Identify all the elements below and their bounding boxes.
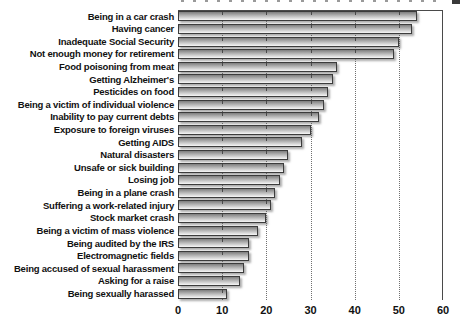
x-axis-tick-label: 20 [260,303,272,317]
category-label: Having cancer [0,24,174,34]
category-label: Unsafe or sick building [0,163,174,173]
x-axis-tick-label: 10 [216,303,228,317]
x-axis-tick-label: 30 [304,303,316,317]
category-label: Stock market crash [0,213,174,223]
category-label: Being in a car crash [0,12,174,22]
category-label: Natural disasters [0,150,174,160]
category-label: Electromagnetic fields [0,251,174,261]
category-label: Being accused of sexual harassment [0,264,174,274]
x-axis: 0102030405060 [0,303,462,319]
x-axis-tick-label: 60 [437,303,449,317]
category-label: Inadequate Social Security [0,37,174,47]
cropped-corner-mark [452,0,460,4]
category-label: Asking for a raise [0,276,174,286]
category-label: Losing job [0,175,174,185]
category-label: Food poisoning from meat [0,62,174,72]
category-label: Not enough money for retirement [0,49,174,59]
plot-frame [178,10,443,300]
x-axis-tick-label: 50 [393,303,405,317]
x-axis-tick-label: 0 [175,303,181,317]
cropped-title-text-fragment [181,0,439,2]
category-label: Being sexually harassed [0,289,174,299]
category-label: Suffering a work-related injury [0,201,174,211]
x-axis-tick-label: 40 [349,303,361,317]
category-label: Inability to pay current debts [0,112,174,122]
category-label: Being a victim of mass violence [0,226,174,236]
category-label: Being a victim of individual violence [0,100,174,110]
bar-chart-figure: Being in a car crashHaving cancerInadequ… [0,0,462,332]
category-label: Exposure to foreign viruses [0,125,174,135]
category-label: Being audited by the IRS [0,239,174,249]
category-label: Being in a plane crash [0,188,174,198]
category-label: Getting AIDS [0,138,174,148]
category-label: Getting Alzheimer's [0,75,174,85]
category-label: Pesticides on food [0,87,174,97]
